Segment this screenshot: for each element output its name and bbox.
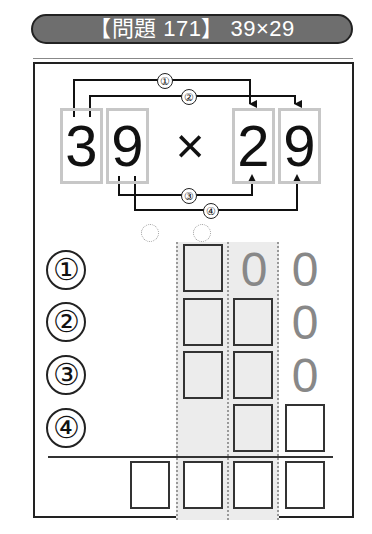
- row-label-4: ④: [46, 408, 86, 448]
- answer-box-r1-hundreds[interactable]: [183, 244, 223, 292]
- answer-box-r2-hundreds[interactable]: [183, 298, 223, 346]
- answer-box-r2-tens[interactable]: [233, 298, 273, 346]
- placeholder-zero: 0: [234, 246, 274, 294]
- step-label-3: ③: [181, 188, 197, 204]
- placeholder-zero: 0: [285, 246, 325, 294]
- multiplier-ones-digit: 9: [278, 108, 321, 184]
- step-label-2: ②: [181, 89, 197, 105]
- row-label-3: ③: [46, 355, 86, 395]
- result-box-hundreds[interactable]: [183, 461, 223, 509]
- result-box-tens[interactable]: [233, 461, 273, 509]
- placeholder-zero: 0: [285, 299, 325, 347]
- multiplicand-ones-digit: 9: [106, 108, 149, 184]
- row-label-1: ①: [46, 250, 86, 290]
- times-sign: ×: [170, 118, 210, 174]
- result-box-ones[interactable]: [285, 461, 325, 509]
- placeholder-zero: 0: [285, 352, 325, 400]
- carry-circle-2: [193, 224, 211, 242]
- row-label-2: ②: [46, 302, 86, 342]
- answer-box-r3-hundreds[interactable]: [183, 351, 223, 399]
- answer-box-r4-tens[interactable]: [233, 404, 273, 452]
- answer-box-r3-tens[interactable]: [233, 351, 273, 399]
- carry-circle-1: [141, 224, 159, 242]
- step-label-4: ④: [203, 203, 219, 219]
- result-box-thousands[interactable]: [130, 461, 170, 509]
- multiplicand-tens-digit: 3: [60, 108, 103, 184]
- sum-line: [48, 456, 333, 458]
- answer-box-r4-ones[interactable]: [285, 404, 325, 452]
- step-label-1: ①: [157, 73, 173, 89]
- multiplier-tens-digit: 2: [232, 108, 275, 184]
